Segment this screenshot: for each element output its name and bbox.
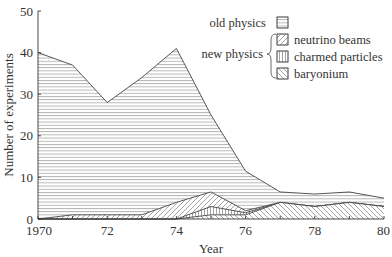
- x-axis-title: Year: [199, 241, 224, 256]
- legend-item-charmed-particles: charmed particles: [294, 50, 383, 64]
- legend-swatch-charmed-particles: [277, 51, 288, 62]
- y-tick-label: 40: [20, 45, 33, 60]
- legend-item-baryonium: baryonium: [294, 67, 348, 81]
- x-tick-label: 72: [101, 223, 114, 238]
- x-tick-label: 74: [170, 223, 184, 238]
- y-tick-label: 30: [20, 87, 33, 102]
- x-tick-label: 1970: [26, 223, 52, 238]
- y-tick-label: 20: [20, 128, 33, 143]
- legend: old physicsneutrino beamscharmed particl…: [202, 16, 383, 81]
- legend-new-physics-label: new physics: [202, 47, 264, 61]
- legend-old-physics-label: old physics: [209, 16, 266, 30]
- x-tick-label: 80: [377, 223, 390, 238]
- x-tick-label: 78: [308, 223, 321, 238]
- y-tick-label: 10: [20, 170, 33, 185]
- legend-brace: [267, 34, 276, 78]
- legend-swatch-old-physics: [277, 17, 288, 28]
- legend-swatch-baryonium: [277, 68, 288, 79]
- y-axis-title: Number of experiments: [1, 53, 16, 176]
- y-tick-label: 50: [20, 4, 33, 19]
- legend-item-neutrino-beams: neutrino beams: [294, 33, 371, 47]
- x-tick-label: 76: [239, 223, 253, 238]
- stacked-area-chart: 0102030405019707274767880YearNumber of e…: [0, 0, 392, 257]
- legend-swatch-neutrino-beams: [277, 34, 288, 45]
